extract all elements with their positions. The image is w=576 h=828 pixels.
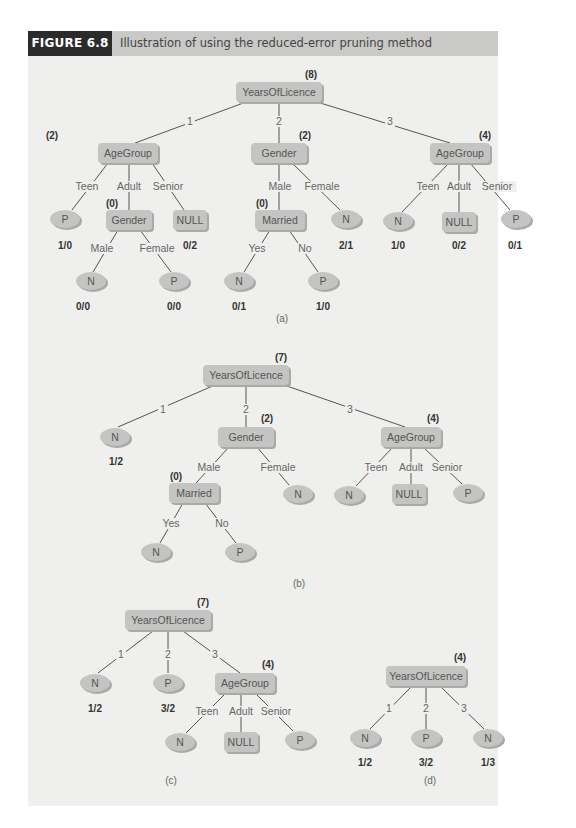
decision-node: Gender(2) xyxy=(251,130,311,165)
tree-edge: 1 xyxy=(135,102,246,143)
node-count: (2) xyxy=(261,413,273,424)
node-label: N xyxy=(484,732,492,744)
node-count: (2) xyxy=(299,130,311,141)
node-label: P xyxy=(164,677,171,689)
node-label: YearsOfLicence xyxy=(209,369,283,381)
edge-label: Adult xyxy=(117,180,141,192)
node-label: N xyxy=(342,213,350,225)
node-label: N xyxy=(152,546,160,558)
node-count: (0) xyxy=(256,198,268,209)
leaf-node: P0/1 xyxy=(501,210,533,251)
decision-node: NULL xyxy=(392,484,428,506)
edge-label: 3 xyxy=(461,702,467,714)
edge-label: Senior xyxy=(261,705,292,717)
tree-edge: 2 xyxy=(274,102,284,143)
decision-node: AgeGroup(4) xyxy=(430,130,492,165)
node-count: (4) xyxy=(454,652,466,663)
node-label: Married xyxy=(262,214,298,226)
tree-edge: No xyxy=(205,503,236,543)
node-count: 0/0 xyxy=(76,301,90,312)
edge-label: Male xyxy=(269,180,292,192)
tree-edge: Teen xyxy=(72,163,108,210)
tree-edge: Yes xyxy=(244,230,270,272)
edge-label: 1 xyxy=(386,702,392,714)
tree-edge: Teen xyxy=(356,447,393,486)
decision-node: YearsOfLicence(8) xyxy=(236,69,324,104)
node-label: N xyxy=(294,488,302,500)
node-count: (4) xyxy=(479,130,491,141)
node-count: 0/1 xyxy=(232,301,246,312)
edge-label: Senior xyxy=(432,461,463,473)
leaf-node: N xyxy=(283,485,315,505)
node-count: 1/0 xyxy=(391,240,405,251)
leaf-node: N xyxy=(334,486,366,506)
edge-label: 3 xyxy=(347,403,353,415)
node-label: AgeGroup xyxy=(436,147,484,159)
node-label: NULL xyxy=(396,488,423,500)
node-count: 3/2 xyxy=(419,757,433,768)
tree-edge: Female xyxy=(138,230,177,272)
node-label: N xyxy=(111,431,119,443)
node-label: P xyxy=(319,275,326,287)
edge-label: Male xyxy=(91,242,114,254)
tree-edge: 2 xyxy=(163,631,173,673)
tree-edge: Male xyxy=(266,163,293,210)
node-count: 1/2 xyxy=(88,703,102,714)
node-count: 1/2 xyxy=(109,456,123,467)
edge-label: Female xyxy=(139,242,174,254)
node-count: 1/0 xyxy=(316,301,330,312)
node-count: (4) xyxy=(427,413,439,424)
tree-c: 123TeenAdultSeniorYearsOfLicence(7)N1/2P… xyxy=(80,597,317,786)
tree-edge: 3 xyxy=(442,688,484,729)
leaf-node: P xyxy=(453,484,485,504)
edge-label: 1 xyxy=(160,403,166,415)
tree-edge: 2 xyxy=(421,688,431,729)
node-label: P xyxy=(170,275,177,287)
tree-a: 123TeenAdultSeniorMaleFemaleMaleFemaleYe… xyxy=(46,69,533,324)
leaf-node: P1/0 xyxy=(308,272,340,312)
node-label: P xyxy=(296,734,303,746)
node-label: Gender xyxy=(228,431,264,443)
edge-label: Teen xyxy=(365,461,388,473)
node-label: N xyxy=(361,732,369,744)
tree-edge: Senior xyxy=(470,163,516,210)
node-label: AgeGroup xyxy=(387,431,435,443)
node-count: 0/1 xyxy=(508,240,522,251)
leaf-node: N0/0 xyxy=(76,272,108,312)
node-count: (7) xyxy=(275,352,287,363)
tree-edge: Female xyxy=(257,447,297,485)
node-label: N xyxy=(91,677,99,689)
tree-edge: No xyxy=(289,230,318,272)
node-label: P xyxy=(422,732,429,744)
node-label: Married xyxy=(176,487,212,499)
decision-node: NULL0/2 xyxy=(442,212,478,251)
decision-node: NULL xyxy=(224,732,260,754)
decision-node: AgeGroup(2) xyxy=(46,130,160,165)
tree-edge: 1 xyxy=(370,688,410,729)
leaf-node: P0/0 xyxy=(159,272,191,312)
decision-node: Gender(2) xyxy=(218,413,276,449)
tree-edge: Adult xyxy=(395,447,428,484)
edge-label: Female xyxy=(260,461,295,473)
subfigure-caption: (d) xyxy=(424,775,436,786)
tree-edge: Senior xyxy=(149,163,188,210)
tree-edge: Senior xyxy=(255,693,295,731)
node-count: 2/1 xyxy=(339,240,353,251)
edge-label: 1 xyxy=(118,648,124,660)
edge-label: 3 xyxy=(387,115,393,127)
edge-label: 2 xyxy=(165,648,171,660)
node-count: 1/2 xyxy=(358,757,372,768)
node-label: AgeGroup xyxy=(221,677,269,689)
edge-label: No xyxy=(298,242,312,254)
leaf-node: N1/2 xyxy=(80,674,112,714)
decision-node: YearsOfLicence(7) xyxy=(125,597,213,632)
edge-label: Male xyxy=(198,461,221,473)
edge-label: Teen xyxy=(417,180,440,192)
leaf-node: N1/2 xyxy=(350,729,382,768)
edge-label: Yes xyxy=(162,517,179,529)
node-count: (0) xyxy=(106,198,118,209)
edge-label: 3 xyxy=(212,648,218,660)
node-label: NULL xyxy=(177,214,204,226)
decision-node: Gender(0) xyxy=(106,198,154,232)
node-count: (2) xyxy=(46,130,58,141)
